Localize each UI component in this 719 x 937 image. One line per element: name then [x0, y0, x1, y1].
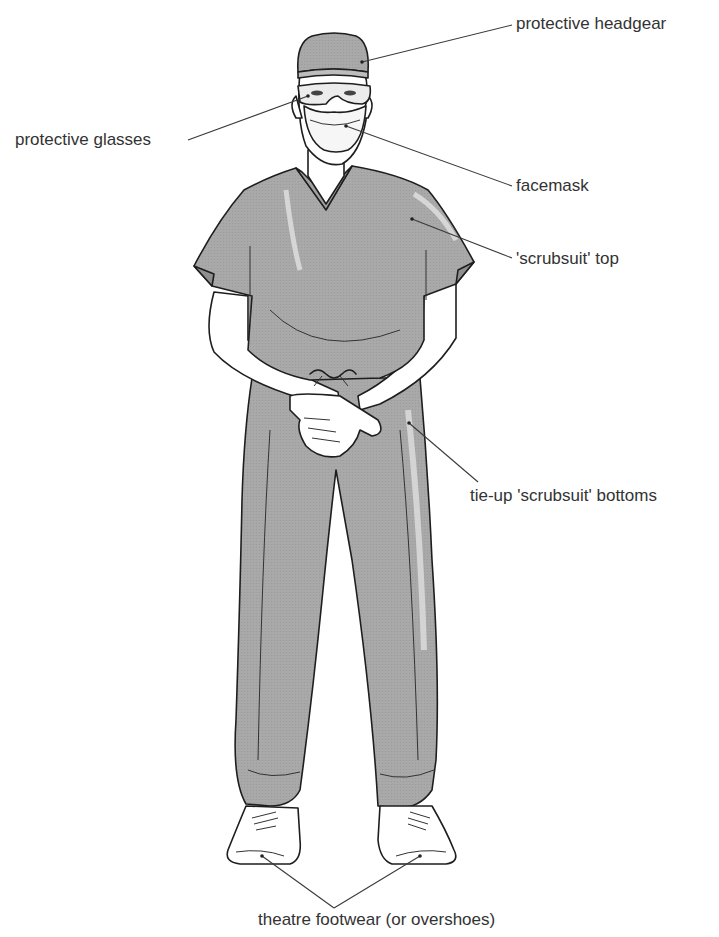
- surgical-cap: [298, 33, 368, 72]
- leader-footwear-left: [262, 856, 334, 908]
- pointer-top: [410, 217, 414, 221]
- label-protective-glasses: protective glasses: [15, 130, 151, 150]
- label-scrubsuit-top: 'scrubsuit' top: [516, 249, 619, 269]
- pointer-bottoms: [407, 421, 411, 425]
- leader-headgear: [362, 25, 512, 62]
- leader-glasses: [188, 96, 308, 140]
- head: [292, 33, 372, 165]
- pointer-footwear-right: [418, 854, 422, 858]
- leader-footwear-right: [334, 856, 420, 908]
- pointer-footwear-left: [260, 854, 264, 858]
- label-theatre-footwear: theatre footwear (or overshoes): [258, 910, 495, 930]
- pointer-facemask: [344, 124, 348, 128]
- pointer-headgear: [360, 60, 364, 64]
- label-scrubsuit-bottoms: tie-up 'scrubsuit' bottoms: [470, 486, 657, 506]
- label-protective-headgear: protective headgear: [516, 14, 666, 34]
- pointer-glasses: [306, 94, 310, 98]
- diagram-canvas: protective headgear protective glasses f…: [0, 0, 719, 937]
- label-facemask: facemask: [516, 176, 589, 196]
